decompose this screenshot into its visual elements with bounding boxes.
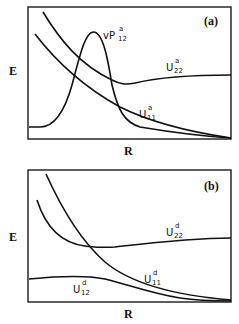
svg-text:U: U xyxy=(166,62,173,73)
label-u12d: U d 12 xyxy=(73,279,90,297)
svg-text:U: U xyxy=(73,284,80,295)
svg-text:12: 12 xyxy=(118,35,127,43)
svg-text:U: U xyxy=(139,109,146,120)
svg-text:a: a xyxy=(175,57,179,65)
svg-text:11: 11 xyxy=(152,279,161,287)
label-vp12a: vP a 12 xyxy=(103,25,127,43)
curve-vp12a xyxy=(29,32,231,138)
svg-text:a: a xyxy=(119,25,123,33)
svg-text:12: 12 xyxy=(81,289,90,297)
curve-u11a xyxy=(35,34,231,138)
svg-text:22: 22 xyxy=(174,67,183,75)
svg-text:22: 22 xyxy=(174,232,183,240)
svg-text:11: 11 xyxy=(147,114,156,122)
panel-b-x-axis-label: R xyxy=(124,307,133,321)
potential-energy-diagram: (a) E R vP a 12 U a 22 U a 11 (b) E R xyxy=(0,0,239,324)
panel-a-y-axis-label: E xyxy=(9,64,17,78)
panel-b-y-axis-label: E xyxy=(9,230,17,244)
svg-text:U: U xyxy=(166,227,173,238)
panel-b-frame xyxy=(28,170,231,302)
svg-text:U: U xyxy=(144,274,151,285)
panel-b-label: (b) xyxy=(204,179,219,193)
label-u11d: U d 11 xyxy=(144,269,161,287)
curve-u22d xyxy=(37,200,231,247)
panel-b: (b) E R U d 22 U d 11 U d 12 xyxy=(9,170,231,321)
label-u22d: U d 22 xyxy=(166,222,183,240)
panel-a: (a) E R vP a 12 U a 22 U a 11 xyxy=(9,7,231,158)
svg-text:d: d xyxy=(153,269,157,277)
svg-text:vP: vP xyxy=(103,30,115,41)
svg-text:a: a xyxy=(148,104,152,112)
svg-text:d: d xyxy=(82,279,86,287)
panel-a-frame xyxy=(28,7,231,139)
panel-a-label: (a) xyxy=(204,14,218,28)
panel-a-x-axis-label: R xyxy=(124,144,133,158)
svg-text:d: d xyxy=(175,222,179,230)
label-u11a: U a 11 xyxy=(139,104,156,122)
label-u22a: U a 22 xyxy=(166,57,183,75)
